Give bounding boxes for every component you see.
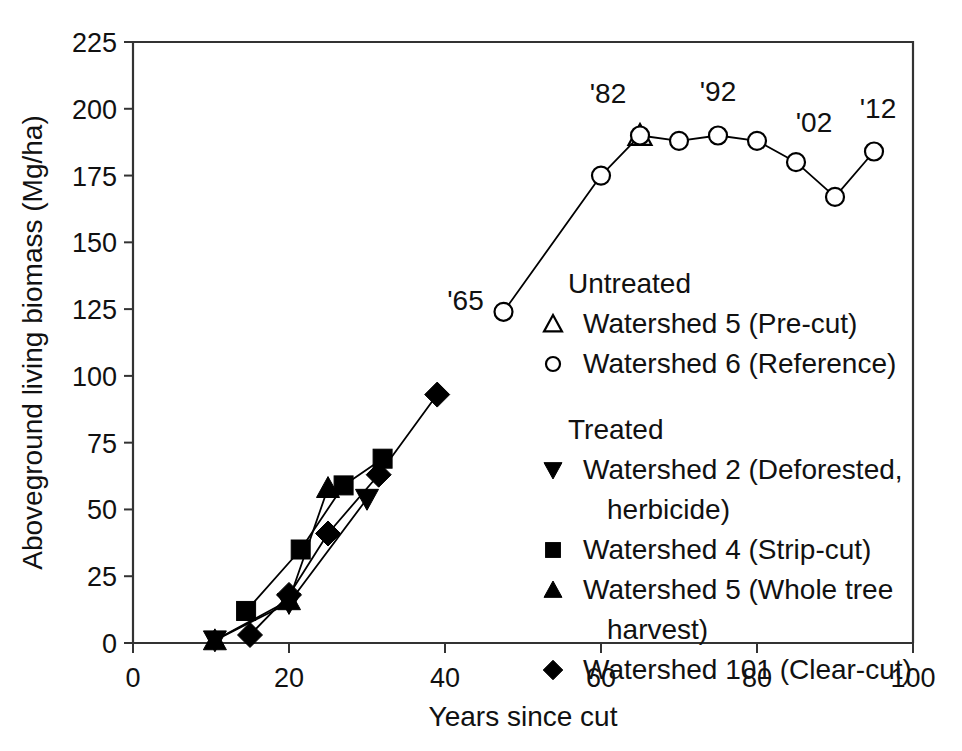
- data-point-circle-open: [592, 167, 610, 185]
- legend-entry-label: Watershed 6 (Reference): [583, 348, 896, 379]
- legend-group-title-treated: Treated: [568, 414, 663, 445]
- x-axis-tick-label: 20: [274, 663, 304, 693]
- data-point-triangle-down-filled: [356, 489, 379, 510]
- legend-entry[interactable]: Watershed 4 (Strip-cut): [546, 534, 872, 565]
- legend-entry[interactable]: Watershed 5 (Whole treeharvest): [544, 574, 893, 645]
- y-axis-title: Aboveground living biomass (Mg/ha): [17, 115, 48, 569]
- x-axis-tick-label: 40: [430, 663, 460, 693]
- data-point-diamond-filled: [316, 521, 341, 546]
- legend-entry[interactable]: Watershed 101 (Clear-cut): [543, 654, 912, 685]
- legend-entry-label: Watershed 5 (Whole tree: [583, 574, 893, 605]
- series-polyline: [215, 488, 328, 640]
- legend-entry[interactable]: Watershed 6 (Reference): [546, 348, 896, 379]
- chart-canvas: 0255075100125150175200225020406080100 '6…: [0, 0, 962, 751]
- data-point-circle-open: [865, 143, 883, 161]
- legend-entry[interactable]: Watershed 2 (Deforested,herbicide): [544, 454, 903, 525]
- point-annotation-02: '02: [796, 107, 833, 138]
- y-axis-tick-label: 225: [72, 28, 117, 58]
- series-watershed-101-clear-cut: [238, 382, 450, 647]
- y-axis-tick-label: 50: [87, 495, 117, 525]
- legend-entry-label: Watershed 5 (Pre-cut): [583, 308, 857, 339]
- legend-entry-label-cont: harvest): [607, 614, 708, 645]
- data-point-diamond-filled: [543, 660, 563, 680]
- legend-entry-label: Watershed 4 (Strip-cut): [583, 534, 871, 565]
- point-annotation-92: '92: [700, 76, 737, 107]
- data-point-diamond-filled: [425, 382, 450, 407]
- y-axis-tick-label: 150: [72, 228, 117, 258]
- series-polyline: [246, 459, 383, 611]
- data-point-square-filled: [546, 543, 561, 558]
- data-point-triangle-up-filled: [544, 581, 562, 597]
- legend-group-title-untreated: Untreated: [568, 268, 691, 299]
- y-axis-tick-label: 75: [87, 429, 117, 459]
- y-axis-tick-label: 25: [87, 562, 117, 592]
- legend-entry-label-cont: herbicide): [607, 494, 730, 525]
- y-axis-tick-label: 175: [72, 162, 117, 192]
- legend-layer: UntreatedWatershed 5 (Pre-cut)Watershed …: [543, 268, 912, 685]
- point-annotation-65: '65: [447, 285, 484, 316]
- chart-figure: 0255075100125150175200225020406080100 '6…: [0, 0, 962, 751]
- data-point-circle-open: [748, 132, 766, 150]
- data-point-triangle-down-filled: [544, 463, 562, 479]
- data-point-circle-open: [787, 153, 805, 171]
- y-axis-tick-label: 100: [72, 362, 117, 392]
- data-point-triangle-up-open: [544, 315, 562, 331]
- legend-entry[interactable]: Watershed 5 (Pre-cut): [544, 308, 857, 339]
- series-polyline: [250, 395, 437, 635]
- point-annotation-82: '82: [590, 78, 627, 109]
- x-axis-tick-label: 0: [125, 663, 140, 693]
- data-point-circle-open: [826, 188, 844, 206]
- data-point-circle-open: [546, 357, 560, 371]
- series-layer: [203, 124, 883, 652]
- y-axis-tick-label: 200: [72, 95, 117, 125]
- series-watershed-2-deforested-herbicide: [203, 489, 378, 651]
- data-point-circle-open: [709, 126, 727, 144]
- x-axis-title: Years since cut: [429, 701, 618, 732]
- data-point-circle-open: [631, 126, 649, 144]
- data-point-square-filled: [237, 601, 256, 620]
- data-point-circle-open: [495, 303, 513, 321]
- legend-entry-label: Watershed 2 (Deforested,: [583, 454, 903, 485]
- y-axis-tick-label: 125: [72, 295, 117, 325]
- legend-entry-label: Watershed 101 (Clear-cut): [583, 654, 912, 685]
- y-axis-tick-label: 0: [102, 629, 117, 659]
- point-annotation-12: '12: [860, 93, 897, 124]
- data-point-circle-open: [670, 132, 688, 150]
